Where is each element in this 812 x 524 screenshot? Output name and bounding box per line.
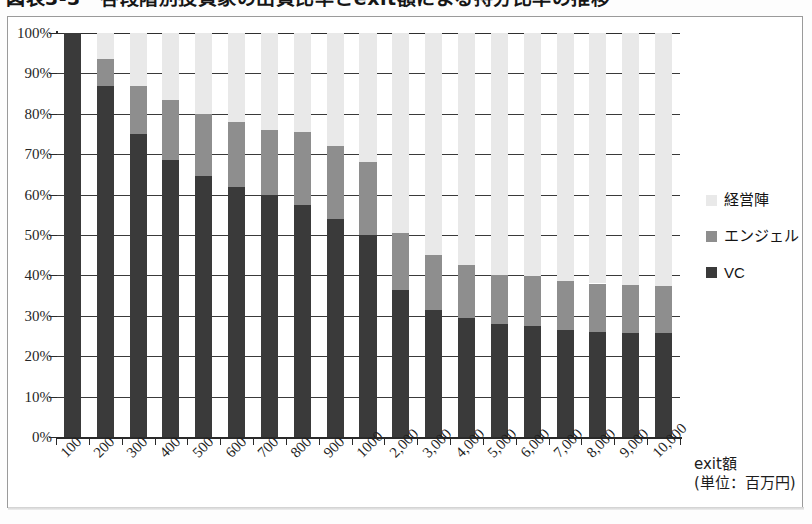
- bar-group: [557, 33, 574, 437]
- y-axis-tick-mark: [49, 356, 57, 357]
- bar-group: [261, 33, 278, 437]
- bar-segment-vc: [425, 310, 442, 437]
- bar-segment-vc: [130, 134, 147, 437]
- figure-title-cropped: 図表3-3 各段階別投資家の出資比率とexit額による持分比率の推移: [0, 0, 812, 13]
- x-axis-tick-mark: [253, 437, 254, 445]
- bar-segment-angel: [261, 130, 278, 195]
- y-axis-tick-label: 90%: [4, 66, 52, 81]
- bar-group: [589, 33, 606, 437]
- y-axis-tick-mark: [49, 316, 57, 317]
- bar-segment-vc: [294, 205, 311, 437]
- x-axis-title-line2: (単位：百万円): [694, 474, 796, 493]
- bar-segment-vc: [557, 330, 574, 437]
- bar-segment-mgmt: [359, 33, 376, 162]
- y-axis-tick-mark: [49, 397, 57, 398]
- x-axis-tick-mark: [122, 437, 123, 445]
- figure-title-text: 図表3-3 各段階別投資家の出資比率とexit額による持分比率の推移: [6, 0, 610, 10]
- bar-segment-angel: [162, 100, 179, 161]
- bar-segment-angel: [491, 275, 508, 323]
- bar-segment-vc: [392, 290, 409, 437]
- bar-segment-mgmt: [491, 33, 508, 275]
- y-axis-tick-mark: [49, 437, 57, 438]
- y-axis-tick-label: 50%: [4, 228, 52, 243]
- y-axis-tick-label: 80%: [4, 107, 52, 122]
- bar-segment-vc: [589, 332, 606, 437]
- bar-segment-vc: [327, 219, 344, 437]
- bar-segment-angel: [622, 285, 639, 333]
- bar-group: [655, 33, 672, 437]
- bar-segment-mgmt: [589, 33, 606, 283]
- legend-label-mgmt: 経営陣: [724, 193, 769, 208]
- bar-segment-mgmt: [425, 33, 442, 255]
- bar-segment-vc: [261, 195, 278, 437]
- bar-segment-mgmt: [524, 33, 541, 276]
- y-axis-tick-mark: [49, 33, 57, 34]
- bar-segment-angel: [97, 59, 114, 85]
- bar-segment-vc: [458, 318, 475, 437]
- bar-group: [195, 33, 212, 437]
- x-axis-tick-mark: [56, 437, 57, 445]
- y-axis-tick-mark: [49, 114, 57, 115]
- bar-segment-angel: [392, 233, 409, 290]
- bar-group: [162, 33, 179, 437]
- legend-swatch-vc-icon: [706, 267, 717, 278]
- bar-segment-mgmt: [228, 33, 245, 122]
- bar-group: [458, 33, 475, 437]
- y-axis-tick-mark: [49, 195, 57, 196]
- x-axis-title: exit額 (単位：百万円): [694, 455, 796, 493]
- y-axis-tick-label: 10%: [4, 390, 52, 405]
- bar-group: [425, 33, 442, 437]
- bar-segment-angel: [195, 114, 212, 177]
- legend-item-angel: エンジェル: [706, 229, 810, 244]
- y-axis-tick-mark: [49, 275, 57, 276]
- bar-group: [97, 33, 114, 437]
- y-axis-tick-label: 70%: [4, 147, 52, 162]
- bar-segment-angel: [557, 281, 574, 330]
- bar-segment-vc: [97, 86, 114, 437]
- bar-segment-angel: [327, 146, 344, 219]
- x-axis-tick-mark: [352, 437, 353, 445]
- bar-group: [491, 33, 508, 437]
- legend-label-angel: エンジェル: [724, 229, 799, 244]
- bar-series-container: [56, 33, 680, 437]
- plot-area: [56, 33, 680, 437]
- y-axis-tick-label: 40%: [4, 268, 52, 283]
- legend-label-vc: VC: [724, 265, 745, 280]
- bar-segment-vc: [655, 333, 672, 437]
- bar-segment-mgmt: [557, 33, 574, 281]
- bar-segment-mgmt: [162, 33, 179, 100]
- bar-group: [64, 33, 81, 437]
- bar-segment-vc: [622, 333, 639, 437]
- x-axis-labels: 10020030040050060070080090010002,0003,00…: [0, 446, 812, 516]
- bar-group: [524, 33, 541, 437]
- x-axis-tick-mark: [155, 437, 156, 445]
- bar-segment-vc: [64, 33, 81, 437]
- legend: 経営陣 エンジェル VC: [706, 193, 810, 301]
- y-axis-tick-mark: [49, 73, 57, 74]
- bar-group: [228, 33, 245, 437]
- bar-group: [622, 33, 639, 437]
- y-axis-labels: 0%10%20%30%40%50%60%70%80%90%100%: [0, 33, 52, 437]
- bar-group: [327, 33, 344, 437]
- bar-segment-mgmt: [195, 33, 212, 114]
- y-axis-tick-label: 60%: [4, 188, 52, 203]
- figure-container: 図表3-3 各段階別投資家の出資比率とexit額による持分比率の推移 0%10%…: [0, 0, 812, 524]
- bar-segment-vc: [228, 187, 245, 437]
- bar-segment-angel: [425, 255, 442, 310]
- x-axis-tick-mark: [319, 437, 320, 445]
- legend-item-mgmt: 経営陣: [706, 193, 810, 208]
- bar-segment-mgmt: [261, 33, 278, 130]
- bar-segment-mgmt: [392, 33, 409, 233]
- bar-segment-mgmt: [294, 33, 311, 132]
- bar-segment-vc: [524, 326, 541, 437]
- bar-group: [392, 33, 409, 437]
- bar-segment-mgmt: [655, 33, 672, 286]
- bar-segment-mgmt: [327, 33, 344, 146]
- bar-segment-vc: [491, 324, 508, 437]
- bar-segment-angel: [458, 265, 475, 318]
- bar-segment-angel: [294, 132, 311, 205]
- y-axis-tick-mark: [49, 154, 57, 155]
- bar-segment-vc: [162, 160, 179, 437]
- bar-segment-angel: [655, 286, 672, 333]
- y-axis-tick-label: 100%: [4, 26, 52, 41]
